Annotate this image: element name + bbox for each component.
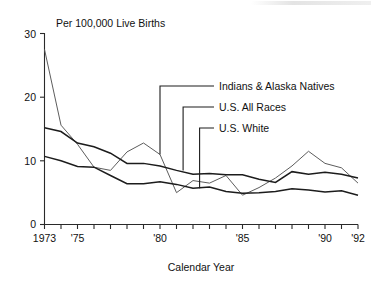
leader-line-indians-alaska-natives — [160, 86, 214, 154]
y-axis-ticks — [40, 34, 45, 225]
x-axis-ticks — [45, 225, 359, 230]
x-tick-label-1980: '80 — [153, 232, 167, 244]
x-tick-label-1992: '92 — [351, 232, 365, 244]
chart-axes — [45, 33, 359, 225]
leader-line-us-white — [200, 128, 214, 188]
x-axis-title: Calendar Year — [168, 261, 235, 273]
y-tick-label-0: 0 — [30, 218, 36, 230]
chart-unit-title: Per 100,000 Live Births — [56, 17, 165, 29]
leader-line-us-all-races — [183, 107, 214, 170]
series-line-us-white — [45, 156, 359, 195]
y-tick-label-10: 10 — [24, 155, 36, 167]
series-line-us-all-races — [45, 128, 359, 183]
x-tick-label-1973: 1973 — [33, 232, 57, 244]
annotation-label-us-all-races: U.S. All Races — [219, 101, 286, 113]
annotation-label-us-white: U.S. White — [219, 122, 269, 134]
y-axis-tick-labels: 0 10 20 30 — [24, 28, 36, 231]
y-tick-label-20: 20 — [24, 91, 36, 103]
x-tick-label-1990: '90 — [318, 232, 332, 244]
annotation-labels: Indians & Alaska Natives U.S. All Races … — [219, 80, 335, 134]
data-series-group — [45, 49, 359, 195]
chart-container: 0 10 20 30 1973'75'80'85'90'92 Indians &… — [0, 0, 377, 283]
line-chart-svg: 0 10 20 30 1973'75'80'85'90'92 Indians &… — [0, 0, 377, 283]
x-tick-label-1975: '75 — [71, 232, 85, 244]
y-tick-label-30: 30 — [24, 28, 36, 40]
x-tick-label-1985: '85 — [236, 232, 250, 244]
annotation-label-indians-alaska-natives: Indians & Alaska Natives — [219, 80, 335, 92]
x-axis-tick-labels: 1973'75'80'85'90'92 — [33, 232, 365, 244]
